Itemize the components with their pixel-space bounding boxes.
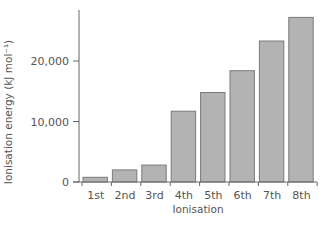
bars-group xyxy=(83,17,313,182)
bar-4th xyxy=(171,111,195,182)
y-ticks: 010,00020,000 xyxy=(31,55,80,189)
x-tick-label: 2nd xyxy=(115,189,136,202)
ionisation-energy-bar-chart: 010,00020,000 1st2nd3rd4th5th6th7th8th I… xyxy=(0,0,326,228)
x-tick-label: 7th xyxy=(263,189,281,202)
x-axis-title: Ionisation xyxy=(172,203,223,215)
bar-3rd xyxy=(142,165,166,182)
x-tick-label: 4th xyxy=(175,189,193,202)
bar-6th xyxy=(230,71,254,182)
bar-8th xyxy=(289,17,313,182)
bar-2nd xyxy=(112,170,136,182)
x-tick-label: 8th xyxy=(292,189,310,202)
bar-5th xyxy=(201,93,225,183)
x-tick-label: 3rd xyxy=(145,189,163,202)
bar-7th xyxy=(259,41,283,182)
bar-1st xyxy=(83,177,107,182)
x-ticks: 1st2nd3rd4th5th6th7th8th xyxy=(82,182,317,202)
x-tick-label: 6th xyxy=(234,189,252,202)
y-tick-label: 0 xyxy=(62,176,69,189)
x-tick-label: 5th xyxy=(204,189,222,202)
y-tick-label: 10,000 xyxy=(31,116,70,129)
x-tick-label: 1st xyxy=(87,189,105,202)
y-axis-title: Ionisation energy (kJ mol⁻¹) xyxy=(2,40,14,184)
y-tick-label: 20,000 xyxy=(31,55,70,68)
